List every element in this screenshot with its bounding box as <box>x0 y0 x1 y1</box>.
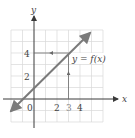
y-axis-label: y <box>30 5 37 15</box>
x-axis-label: x <box>122 94 127 104</box>
function-graph-figure: y x 0 2 3 4 2 4 y = f(x) <box>0 0 135 138</box>
graph-canvas: y x 0 2 3 4 2 4 y = f(x) <box>0 0 135 138</box>
y-tick-2: 2 <box>24 72 30 82</box>
x-tick-2: 2 <box>54 103 60 113</box>
curve-label: y = f(x) <box>71 54 106 64</box>
y-tick-4: 4 <box>24 49 30 59</box>
origin-label: 0 <box>27 103 33 113</box>
x-tick-3: 3 <box>66 103 72 113</box>
x-tick-4: 4 <box>77 103 83 113</box>
